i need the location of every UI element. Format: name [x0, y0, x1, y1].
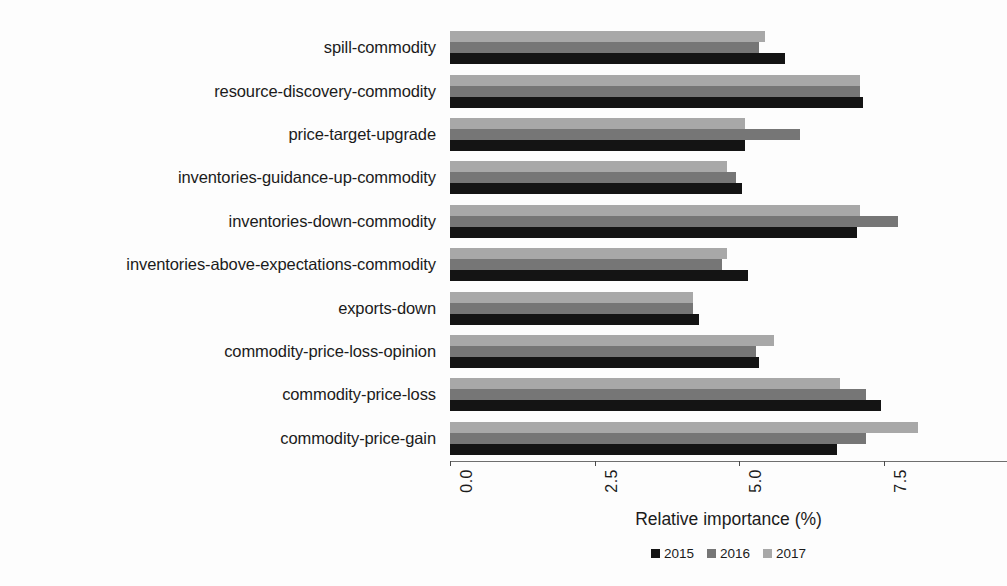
bar-2015	[450, 444, 837, 455]
bar-group	[450, 286, 1007, 329]
x-axis-tick-label: 2.5	[603, 469, 621, 493]
bar-2017	[450, 248, 727, 259]
category-label-text: commodity-price-loss-opinion	[224, 342, 436, 361]
bar-2015	[450, 314, 699, 325]
bar-2016	[450, 172, 736, 183]
bar-2017	[450, 378, 840, 389]
x-axis-tick	[450, 461, 451, 466]
x-axis-tick-label: 5.0	[747, 469, 765, 493]
y-axis-category-label: exports-down	[0, 286, 443, 329]
bar-2016	[450, 346, 756, 357]
x-axis-title: Relative importance (%)	[450, 509, 1007, 530]
bar-2016	[450, 86, 860, 97]
y-axis-category-label: inventories-guidance-up-commodity	[0, 156, 443, 199]
category-label-text: commodity-price-gain	[280, 429, 436, 448]
x-axis-tick-label: 0.0	[458, 469, 476, 493]
bar-group	[450, 243, 1007, 286]
legend-swatch-icon	[651, 549, 660, 558]
bar-2015	[450, 140, 745, 151]
bar-2015	[450, 270, 748, 281]
bar-2015	[450, 183, 742, 194]
bar-2016	[450, 129, 800, 140]
y-axis-category-label: commodity-price-loss-opinion	[0, 330, 443, 373]
bar-2017	[450, 335, 774, 346]
y-axis-category-label: resource-discovery-commodity	[0, 69, 443, 112]
bar-2016	[450, 389, 866, 400]
bar-2017	[450, 292, 693, 303]
y-axis-category-label: inventories-down-commodity	[0, 200, 443, 243]
chart-legend: 201520162017	[450, 546, 1007, 561]
legend-label: 2017	[776, 546, 806, 561]
bar-2016	[450, 216, 898, 227]
legend-swatch-icon	[707, 549, 716, 558]
legend-item-2017[interactable]: 2017	[763, 546, 806, 561]
category-label-text: price-target-upgrade	[289, 125, 437, 144]
y-axis-category-labels: spill-commodityresource-discovery-commod…	[0, 26, 443, 460]
category-label-text: commodity-price-loss	[282, 385, 436, 404]
bar-2017	[450, 31, 765, 42]
bar-group	[450, 156, 1007, 199]
category-label-text: resource-discovery-commodity	[214, 82, 436, 101]
bar-2017	[450, 75, 860, 86]
bar-group	[450, 69, 1007, 112]
bar-group	[450, 200, 1007, 243]
bar-2016	[450, 303, 693, 314]
y-axis-category-label: inventories-above-expectations-commodity	[0, 243, 443, 286]
bar-2017	[450, 118, 745, 129]
plot-area	[450, 26, 1007, 460]
x-axis-tick-label: 7.5	[892, 469, 910, 493]
bar-group	[450, 417, 1007, 460]
legend-item-2015[interactable]: 2015	[651, 546, 694, 561]
y-axis-category-label: commodity-price-loss	[0, 373, 443, 416]
bar-2016	[450, 42, 759, 53]
category-label-text: inventories-guidance-up-commodity	[178, 168, 436, 187]
category-label-text: inventories-above-expectations-commodity	[126, 255, 436, 274]
x-axis-tick	[739, 461, 740, 466]
bar-2015	[450, 227, 857, 238]
category-label-text: exports-down	[338, 299, 436, 318]
bar-2017	[450, 161, 727, 172]
category-label-text: spill-commodity	[324, 38, 436, 57]
bar-group	[450, 373, 1007, 416]
bar-group	[450, 26, 1007, 69]
legend-label: 2016	[720, 546, 750, 561]
chart-figure: spill-commodityresource-discovery-commod…	[0, 0, 1007, 586]
bar-2016	[450, 259, 722, 270]
bar-2015	[450, 97, 863, 108]
x-axis-tick	[595, 461, 596, 466]
bar-2016	[450, 433, 866, 444]
bar-2015	[450, 53, 785, 64]
category-label-text: inventories-down-commodity	[229, 212, 436, 231]
bar-2015	[450, 357, 759, 368]
legend-swatch-icon	[763, 549, 772, 558]
bar-2017	[450, 422, 918, 433]
bar-group	[450, 330, 1007, 373]
legend-item-2016[interactable]: 2016	[707, 546, 750, 561]
y-axis-category-label: price-target-upgrade	[0, 113, 443, 156]
bar-group	[450, 113, 1007, 156]
x-axis-tick	[884, 461, 885, 466]
bar-2017	[450, 205, 860, 216]
bar-2015	[450, 400, 881, 411]
x-axis-line	[450, 461, 1007, 462]
y-axis-category-label: commodity-price-gain	[0, 417, 443, 460]
y-axis-category-label: spill-commodity	[0, 26, 443, 69]
legend-label: 2015	[664, 546, 694, 561]
